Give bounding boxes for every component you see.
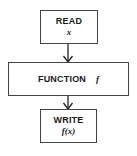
read-label: READ: [56, 16, 82, 27]
write-box: WRITE f(x): [40, 109, 97, 143]
write-expression: f(x): [62, 126, 76, 137]
function-label: FUNCTION: [38, 74, 86, 85]
function-box: FUNCTION f: [8, 62, 129, 96]
arrow-down-icon: [62, 96, 74, 110]
read-variable: x: [67, 27, 72, 38]
function-variable: f: [96, 74, 99, 85]
write-label: WRITE: [54, 115, 84, 126]
arrow-down-icon: [62, 44, 74, 63]
read-box: READ x: [40, 10, 98, 44]
